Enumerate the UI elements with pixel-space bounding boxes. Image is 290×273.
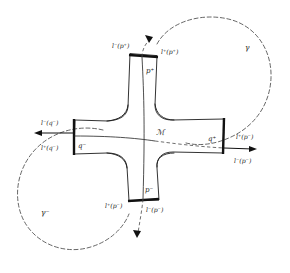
vertical-through-curve [142,57,144,199]
gamma-loop-upper-right [157,17,271,145]
label-left-upper: l⁻(q⁻) [41,119,59,127]
horizontal-through-curve [74,136,155,141]
label-right-upper: l⁺(p⁻) [236,133,254,141]
label-gamma-minus: γ⁻ [41,208,49,217]
fillet-top-right [155,104,174,120]
label-q-minus: q⁻ [78,142,86,150]
bottom-cap [128,199,159,201]
label-right-lower: l⁻(p⁻) [234,157,252,165]
label-p-minus: p⁻ [145,186,153,194]
right-arrow-head [249,146,257,152]
fillet-bottom-right [157,153,174,167]
manifold-diagram: l⁻(p⁺) l⁺(p⁺) p⁺ l⁻(q⁻) l⁺(q⁻) q⁻ q⁺ l⁺(… [0,0,290,273]
top-arrow-head [145,35,153,43]
right-cap [223,118,224,154]
fillet-top-left [107,105,128,121]
label-gamma: γ [245,43,250,52]
fillet-bottom-left [107,153,127,168]
top-cap [129,55,158,57]
label-p-plus: p⁺ [146,67,154,75]
label-manifold-M: ℳ [156,128,166,137]
manifold-outline [74,54,224,201]
label-left-lower: l⁺(q⁻) [41,144,59,152]
label-top-left: l⁻(p⁺) [112,42,130,50]
label-bottom-right: l⁻(p⁻) [146,206,164,214]
figure-root: l⁻(p⁺) l⁺(p⁺) p⁺ l⁻(q⁻) l⁺(q⁻) q⁻ q⁺ l⁺(… [0,0,290,273]
bottom-arrow-head [133,230,141,238]
label-bottom-left: l⁺(p⁻) [105,202,123,210]
left-arrow-head [34,130,42,136]
label-top-right: l⁺(p⁺) [161,48,179,56]
vertical-curve-bottom-ext [138,199,143,233]
right-arrow-shaft [224,148,253,149]
label-q-plus: q⁺ [208,135,216,143]
